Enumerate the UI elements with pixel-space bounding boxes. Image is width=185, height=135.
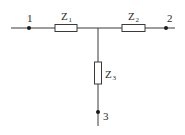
node-2-label: 2 xyxy=(167,12,173,24)
node-1-dot xyxy=(27,26,31,30)
node-1-label: 1 xyxy=(27,12,33,24)
impedance-z2-subscript: 2 xyxy=(136,16,140,24)
impedance-z1 xyxy=(55,25,77,32)
impedance-z3-label: Z xyxy=(105,68,112,80)
impedance-z1-label: Z xyxy=(61,10,68,22)
impedance-z2-label: Z xyxy=(128,10,135,22)
impedance-z3 xyxy=(95,62,102,84)
impedance-z3-subscript: 3 xyxy=(113,74,117,82)
node-3-dot xyxy=(96,110,100,114)
node-2-dot xyxy=(164,26,168,30)
node-3-label: 3 xyxy=(103,110,109,122)
impedance-z1-subscript: 1 xyxy=(69,16,73,24)
t-network-diagram: Z 1 Z 2 Z 3 1 2 3 xyxy=(0,0,185,135)
impedance-z2 xyxy=(122,25,145,32)
